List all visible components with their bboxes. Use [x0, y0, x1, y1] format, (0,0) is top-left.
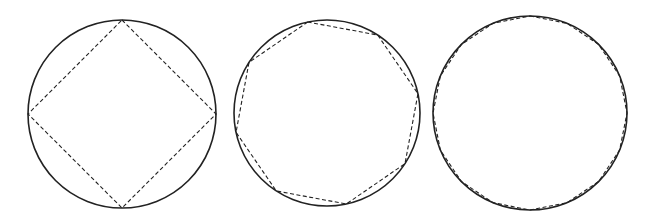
inscribed-octagon	[236, 22, 418, 204]
inscribed-square	[28, 20, 216, 208]
panel-square	[28, 20, 216, 208]
circle-2	[234, 20, 420, 206]
inscribed-polygons-diagram	[0, 0, 652, 222]
circle-1	[28, 20, 216, 208]
panel-hexadecagon	[433, 16, 627, 210]
inscribed-hexadecagon	[433, 16, 627, 210]
circle-3	[433, 16, 627, 210]
panel-octagon	[234, 20, 420, 206]
